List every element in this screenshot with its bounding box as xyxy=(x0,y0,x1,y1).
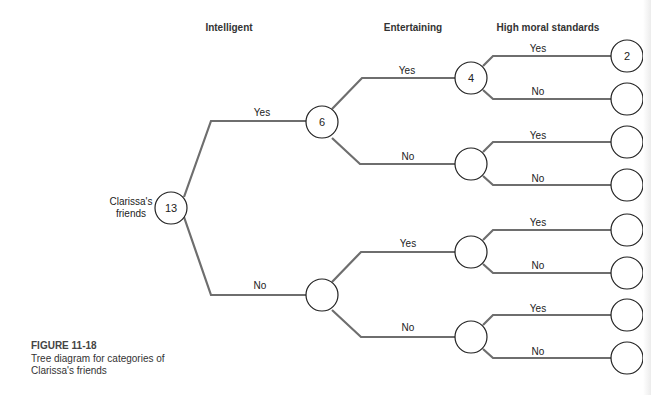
edge-label-leaf7: Yes xyxy=(530,303,546,314)
node-leaf7 xyxy=(611,299,643,331)
edge-label-no-entertaining-yes: Yes xyxy=(400,238,416,249)
edge-label-no-entertaining-no: No xyxy=(402,322,415,333)
node-intelligent-yes-value: 6 xyxy=(319,116,325,128)
tree-diagram: Intelligent Entertaining High moral stan… xyxy=(0,0,651,395)
branch-leaf4 xyxy=(483,176,612,185)
node-leaf1-value: 2 xyxy=(624,50,630,62)
figure-caption: FIGURE 11-18 Tree diagram for categories… xyxy=(31,340,165,378)
header-entertaining: Entertaining xyxy=(384,22,442,33)
figure-caption-line2: Clarissa's friends xyxy=(31,365,165,378)
header-intelligent: Intelligent xyxy=(205,22,253,33)
node-leaf6 xyxy=(611,257,643,289)
branch-leaf1 xyxy=(483,56,612,66)
node-yes-entertaining-no xyxy=(455,148,487,180)
node-root-value: 13 xyxy=(165,202,177,214)
edge-label-leaf5: Yes xyxy=(530,217,546,228)
branch-intelligent-yes xyxy=(184,121,306,197)
node-leaf3 xyxy=(611,126,643,158)
node-leaf8 xyxy=(611,342,643,374)
edge-label-yes-entertaining-yes: Yes xyxy=(399,65,415,76)
edge-label-intelligent-yes: Yes xyxy=(254,107,270,118)
branch-leaf8 xyxy=(483,349,612,358)
figure-caption-line1: Tree diagram for categories of xyxy=(31,353,165,366)
edge-label-intelligent-no: No xyxy=(254,280,267,291)
branch-intelligent-no xyxy=(184,217,306,295)
edge-label-leaf3: Yes xyxy=(530,130,546,141)
node-intelligent-no xyxy=(306,279,338,311)
branch-yes-entertaining-no xyxy=(332,138,456,164)
branch-no-entertaining-yes xyxy=(332,252,456,282)
branch-leaf6 xyxy=(483,264,612,273)
node-leaf4 xyxy=(611,169,643,201)
branch-yes-entertaining-yes xyxy=(332,78,458,109)
branch-leaf7 xyxy=(483,315,612,325)
branch-leaf2 xyxy=(483,90,612,99)
page-edge-shadow xyxy=(643,0,651,395)
header-high-moral-standards: High moral standards xyxy=(497,22,600,33)
node-no-entertaining-yes xyxy=(455,236,487,268)
branch-leaf3 xyxy=(483,142,612,152)
edge-label-yes-entertaining-no: No xyxy=(402,151,415,162)
root-label-line1: Clarissa's xyxy=(109,196,152,207)
root-label-line2: friends xyxy=(116,208,146,219)
edge-label-leaf8: No xyxy=(532,346,545,357)
edge-label-leaf2: No xyxy=(532,86,545,97)
edge-label-leaf4: No xyxy=(532,173,545,184)
edge-label-leaf1: Yes xyxy=(530,43,546,54)
node-no-entertaining-no xyxy=(455,321,487,353)
edge-label-leaf6: No xyxy=(532,260,545,271)
node-yes-entertaining-yes-value: 4 xyxy=(468,72,474,84)
figure-caption-title: FIGURE 11-18 xyxy=(31,340,165,353)
branch-leaf5 xyxy=(483,230,612,240)
branch-no-entertaining-no xyxy=(332,310,456,337)
node-leaf5 xyxy=(611,214,643,246)
node-leaf2 xyxy=(611,83,643,115)
